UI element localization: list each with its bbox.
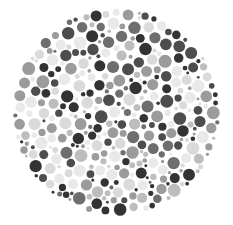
dot [150,92,159,101]
dot [47,48,53,54]
dot [59,73,71,85]
dot [103,11,110,18]
dot [148,143,159,154]
dot-plate [0,0,233,225]
dot [143,89,147,93]
dot [102,207,110,215]
dot [172,31,181,40]
dot [85,113,91,119]
dot [80,50,86,56]
dot [94,60,105,71]
dot [200,63,207,70]
dot [73,80,85,92]
dot [102,73,108,79]
dot [115,89,123,97]
dot [180,182,185,187]
dot [158,133,166,141]
dot [91,10,102,21]
dot [61,147,73,159]
dot [25,96,37,108]
dot [168,184,181,197]
dot [47,123,57,133]
dot [91,198,102,209]
dot [188,122,194,128]
dot [81,179,92,190]
dot [153,49,157,53]
dot [65,169,73,177]
dot [128,22,140,34]
dot [123,179,135,191]
dot [21,131,30,140]
dot [38,129,45,136]
dot [104,138,111,145]
dot [42,119,45,122]
dot [52,32,59,39]
dot [148,191,153,196]
dot [142,158,147,163]
dot [32,132,38,138]
dot [86,206,92,212]
dot [174,141,182,149]
dot [105,190,111,196]
dot [196,169,200,173]
dot [22,62,35,75]
dot [75,74,80,79]
dot [209,83,215,89]
dot [87,194,93,200]
dot [103,37,114,48]
dot [87,170,95,178]
dot [117,102,121,106]
dot [89,165,94,170]
dot [201,57,205,61]
dot [14,119,25,130]
dot [129,203,137,211]
dot [185,182,189,186]
dot [103,132,107,136]
dot [20,146,27,153]
dot [20,140,23,143]
dot [161,160,164,163]
dot [158,123,166,131]
dot [182,75,192,85]
dot [39,150,48,159]
dot [203,104,208,109]
dot [151,16,156,21]
dot [31,145,35,149]
dot [205,143,212,150]
dot [170,173,180,183]
dot [156,184,166,194]
dot [48,71,54,77]
dot [58,134,67,143]
dot [106,169,117,180]
dot [86,30,98,42]
dot [192,80,205,93]
dot [111,146,115,150]
dot [84,131,88,135]
dot [92,153,100,161]
dot [41,38,51,48]
dot [140,150,143,153]
dot [51,154,61,164]
dot [147,54,157,64]
dot [181,153,191,163]
dot [129,162,135,168]
dot [138,11,142,15]
dot [159,151,165,157]
dot [198,164,203,169]
dot [124,41,134,51]
dot [113,9,120,16]
dot [198,103,201,106]
dot [129,118,140,129]
dot [197,98,200,101]
dot [60,103,66,109]
dot [157,21,166,30]
dot [138,79,142,83]
dot [113,75,125,87]
dot [31,57,35,61]
dot [68,198,71,201]
dot [55,109,62,116]
dot [48,99,58,109]
dot [107,18,119,30]
dot [38,99,45,106]
dot [30,160,42,172]
